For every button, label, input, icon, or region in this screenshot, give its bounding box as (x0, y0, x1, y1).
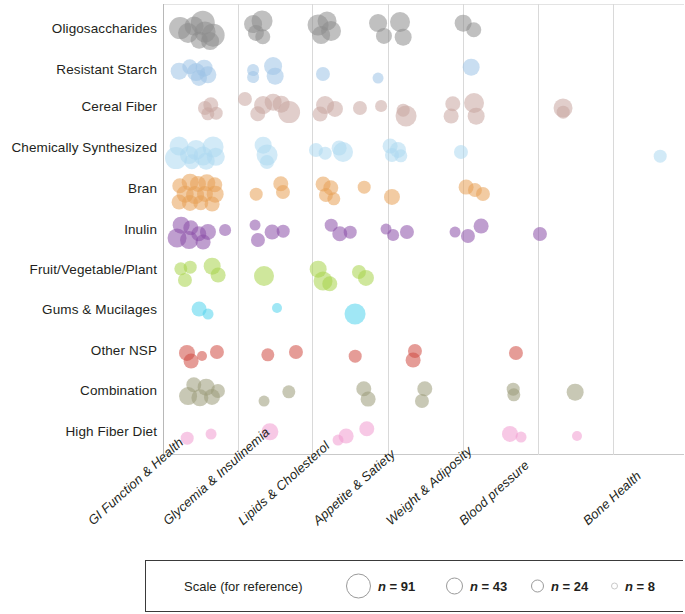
y-axis-label: Combination (80, 384, 157, 398)
column-divider (312, 4, 313, 455)
y-axis-labels: OligosaccharidesResistant StarchCereal F… (0, 0, 157, 460)
bubble (178, 273, 192, 287)
bubble (395, 29, 412, 46)
bubble (406, 353, 421, 368)
legend-circle (446, 578, 463, 595)
bubble (375, 100, 387, 112)
bubble (327, 101, 343, 117)
y-axis-label: Resistant Starch (56, 63, 157, 77)
bubble (509, 346, 523, 360)
bubble (349, 350, 362, 363)
bubble (344, 226, 357, 239)
bubble (397, 104, 410, 117)
bubble (415, 394, 429, 408)
legend-label: n = 43 (470, 579, 507, 594)
legend-item: n = 91 (346, 574, 415, 599)
bubble (198, 153, 215, 170)
plot-top-border (163, 4, 684, 5)
bubble (567, 384, 584, 401)
bubble (219, 224, 231, 236)
bubble (387, 229, 399, 241)
bubble (211, 384, 225, 398)
bubble (450, 227, 461, 238)
bubble (476, 187, 490, 201)
bubble (533, 227, 547, 241)
legend-label: n = 24 (551, 579, 588, 594)
bubble (191, 70, 207, 86)
plot-area (163, 4, 684, 455)
bubble (191, 32, 208, 49)
bubble (254, 266, 274, 286)
bubble (210, 107, 223, 120)
bubble (339, 429, 354, 444)
bubble (260, 155, 274, 169)
y-axis-label: High Fiber Diet (65, 425, 157, 439)
bubble (289, 345, 303, 359)
bubble (384, 189, 400, 205)
y-axis-label: Chemically Synthesized (11, 141, 157, 155)
bubble (238, 92, 252, 106)
bubble (203, 309, 214, 320)
y-axis-label: Oligosaccharides (52, 22, 157, 36)
column-divider (238, 4, 239, 455)
bubble (322, 276, 337, 291)
bubble (184, 154, 199, 169)
plot-left-border (163, 4, 164, 455)
bubble (316, 67, 330, 81)
bubble (516, 432, 527, 443)
bubble-chart: OligosaccharidesResistant StarchCereal F… (0, 0, 685, 614)
bubble (454, 145, 468, 159)
bubble (313, 107, 328, 122)
bubble (557, 106, 570, 119)
legend-circle (531, 580, 544, 593)
bubble (282, 385, 295, 398)
bubble (250, 106, 265, 121)
bubble (345, 304, 366, 325)
bubble (277, 225, 290, 238)
bubble (267, 68, 284, 85)
column-divider (613, 4, 614, 455)
x-axis-label: Bone Health (580, 468, 644, 528)
bubble (247, 71, 259, 83)
bubble (358, 181, 371, 194)
x-axis-labels: GI Function & HealthGlycemia & Insulinem… (0, 455, 685, 555)
bubble (353, 101, 367, 115)
legend-item: n = 43 (446, 578, 507, 595)
y-axis-label: Bran (128, 182, 157, 196)
legend-item: n = 8 (611, 579, 655, 594)
bubble (359, 421, 374, 436)
bubble (319, 147, 332, 160)
bubble (272, 303, 282, 313)
bubble (206, 429, 217, 440)
bubble (251, 233, 265, 247)
bubble (196, 235, 211, 250)
bubble (210, 345, 224, 359)
bubble (394, 149, 407, 162)
bubble (474, 219, 489, 234)
bubble (361, 392, 376, 407)
bubble (197, 351, 207, 361)
bubble (184, 261, 197, 274)
bubble (468, 108, 485, 125)
bubble (461, 229, 475, 243)
bubble (444, 109, 459, 124)
bubble (312, 26, 330, 44)
bubble (358, 270, 374, 286)
bubble (273, 96, 290, 113)
legend-circle (611, 583, 618, 590)
bubble (507, 388, 520, 401)
legend-label: n = 8 (625, 579, 655, 594)
legend-title: Scale (for reference) (184, 579, 303, 594)
bubble (261, 348, 274, 361)
y-axis-label: Inulin (124, 223, 157, 237)
bubble (332, 141, 347, 156)
bubble (250, 188, 263, 201)
x-axis-label: Blood pressure (456, 457, 532, 528)
y-axis-label: Cereal Fiber (82, 100, 157, 114)
y-axis-label: Fruit/Vegetable/Plant (30, 263, 157, 277)
bubble (373, 73, 384, 84)
y-axis-label: Gums & Mucilages (42, 303, 157, 317)
bubble (205, 197, 220, 212)
legend-item: n = 24 (531, 579, 588, 594)
bubble (259, 396, 270, 407)
